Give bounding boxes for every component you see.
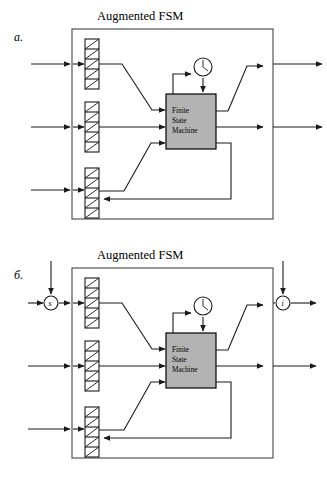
clock-icon: [194, 58, 212, 76]
middle-register: [85, 102, 99, 152]
fsm-label-line-3: Machine: [172, 126, 198, 135]
top-register: [85, 278, 99, 328]
fsm-label-line-3: Machine: [172, 365, 198, 374]
fsm-output-upper: [216, 305, 263, 350]
top-register-to-fsm: [99, 303, 165, 349]
top-register-to-fsm: [99, 64, 165, 110]
input-node-s-label: s: [49, 299, 52, 308]
middle-register: [85, 341, 99, 391]
fsm-label-line-2: State: [172, 116, 187, 125]
fsm-label-line-1: Finite: [172, 106, 189, 115]
output-node-i-label: i: [282, 299, 284, 308]
fsm-to-clock-line: [173, 74, 191, 94]
bottom-register-to-fsm: [99, 143, 165, 191]
panel-a: a. Augmented FSM: [0, 0, 327, 240]
panel-b-drawing: Finite State Machine s i: [0, 240, 327, 479]
bottom-register-to-fsm: [99, 382, 165, 430]
panel-b: б. Augmented FSM: [0, 240, 327, 479]
fsm-label-line-1: Finite: [172, 345, 189, 354]
fsm-label-line-2: State: [172, 355, 187, 364]
clock-icon: [194, 297, 212, 315]
fsm-to-clock-line: [173, 313, 191, 333]
fsm-output-upper: [216, 66, 263, 111]
bottom-register: [85, 407, 99, 457]
figure-canvas: a. Augmented FSM: [0, 0, 327, 479]
panel-a-drawing: Finite State Machine: [0, 0, 327, 240]
bottom-register: [85, 168, 99, 218]
top-register: [85, 39, 99, 89]
